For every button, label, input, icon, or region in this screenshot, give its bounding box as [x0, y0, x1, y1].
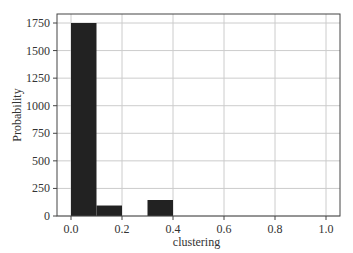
x-tick-label: 0.4 [166, 222, 181, 236]
y-axis-ticks: 02505007501000125015001750 [26, 16, 57, 223]
x-axis-label: clustering [173, 235, 220, 249]
y-tick-label: 1750 [26, 16, 50, 30]
x-tick-label: 0.0 [64, 222, 79, 236]
histogram-bar [148, 200, 174, 216]
y-tick-label: 250 [32, 181, 50, 195]
x-axis-ticks: 0.00.20.40.60.81.0 [64, 216, 334, 236]
histogram-bar [97, 206, 123, 216]
x-tick-label: 1.0 [319, 222, 334, 236]
x-tick-label: 0.2 [115, 222, 130, 236]
y-axis-label: Probability [10, 88, 24, 141]
histogram-chart: 02505007501000125015001750 0.00.20.40.60… [0, 0, 353, 253]
x-tick-label: 0.6 [217, 222, 232, 236]
plot-frame [57, 14, 340, 216]
grid-lines [57, 14, 340, 216]
histogram-bar [71, 23, 97, 216]
y-tick-label: 1250 [26, 71, 50, 85]
y-tick-label: 0 [44, 209, 50, 223]
y-tick-label: 1500 [26, 44, 50, 58]
y-tick-label: 500 [32, 154, 50, 168]
y-tick-label: 750 [32, 126, 50, 140]
y-tick-label: 1000 [26, 99, 50, 113]
x-tick-label: 0.8 [268, 222, 283, 236]
